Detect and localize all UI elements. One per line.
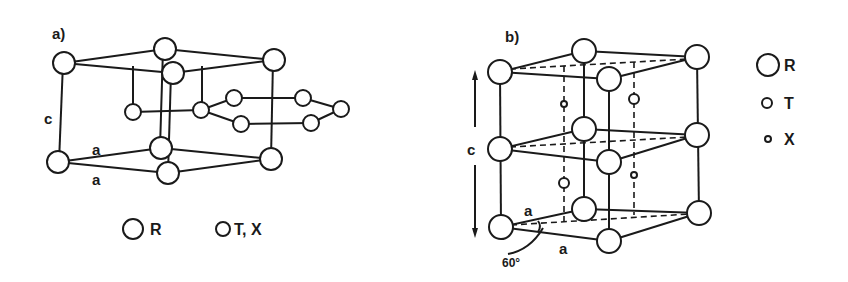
legend-t-label: T <box>784 95 794 112</box>
r-atom <box>687 201 711 225</box>
panel-b-axis-a2: a <box>559 240 568 257</box>
r-atom <box>572 117 596 141</box>
legend-r-label: R <box>784 57 796 74</box>
angle-arc <box>538 221 540 232</box>
x-atom <box>631 172 637 178</box>
t-atom <box>629 94 639 104</box>
r-atom <box>154 38 176 60</box>
tx-atom <box>226 90 242 106</box>
r-atom <box>572 197 596 221</box>
legend-x-label: X <box>784 131 795 148</box>
legend-t-icon <box>762 98 772 108</box>
crystal-structure-figure: a) <box>0 0 848 282</box>
panel-a: a) <box>44 25 349 239</box>
legend-tx-icon <box>216 222 230 236</box>
r-atom <box>162 62 184 84</box>
panel-b-tx-atoms <box>559 94 639 188</box>
tx-atom <box>303 115 319 131</box>
panel-a-label: a) <box>52 25 65 42</box>
legend-tx-label: T, X <box>234 221 262 238</box>
tx-atom <box>125 104 141 120</box>
panel-b-axis-a1: a <box>524 202 533 219</box>
r-atom <box>157 162 179 184</box>
r-atom <box>597 67 621 91</box>
r-atom <box>597 229 621 253</box>
panel-a-axis-c: c <box>44 110 52 127</box>
legend-x-icon <box>765 136 771 142</box>
panel-b: b) c <box>467 28 796 270</box>
legend-r-icon <box>123 219 143 239</box>
legend-r-icon <box>757 54 779 76</box>
panel-b-axis-c: c <box>467 141 475 158</box>
r-atom <box>488 60 512 84</box>
tx-atom <box>193 102 209 118</box>
panel-a-legend: R T, X <box>123 219 262 239</box>
r-atom <box>263 49 285 71</box>
r-atom <box>685 123 709 147</box>
r-atom <box>685 45 709 69</box>
r-atom <box>488 137 512 161</box>
tx-atom <box>333 101 349 117</box>
panel-a-axis-a1: a <box>92 141 101 158</box>
r-atom <box>489 215 513 239</box>
t-atom <box>559 178 569 188</box>
r-atom <box>572 39 596 63</box>
tx-atom <box>295 90 311 106</box>
r-atom <box>47 151 69 173</box>
panel-b-label: b) <box>505 28 519 45</box>
r-atom <box>260 148 282 170</box>
panel-a-axis-a2: a <box>92 171 101 188</box>
x-atom <box>561 101 567 107</box>
legend-r-label: R <box>150 221 162 238</box>
tx-atom <box>233 116 249 132</box>
panel-b-angle-label: 60° <box>502 256 520 270</box>
r-atom <box>150 137 172 159</box>
r-atom <box>597 150 621 174</box>
r-atom <box>53 52 75 74</box>
panel-b-legend: R T X <box>757 54 796 148</box>
